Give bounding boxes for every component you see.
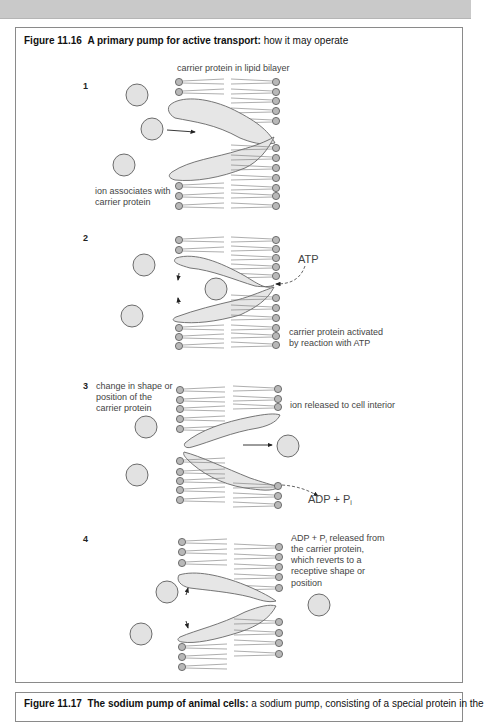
ion <box>113 154 135 176</box>
carrier-protein-lower <box>178 605 276 642</box>
step-4: 4 ADP + Pi released from the carrier pro… <box>83 533 384 671</box>
label-adp-pi: ADP + Pi <box>308 493 352 506</box>
label-revert-3: which reverts to a <box>290 555 362 565</box>
figure-11-17-box: Figure 11.17 The sodium pump of animal c… <box>15 692 463 722</box>
atp-arrow <box>276 266 305 284</box>
label-ion-released: ion released to cell interior <box>290 400 395 410</box>
ion <box>121 305 143 327</box>
ion <box>277 435 299 457</box>
step-3-number: 3 <box>83 381 88 391</box>
ion <box>141 118 163 140</box>
figure-11-17-title-bold: The sodium pump of animal cells: <box>87 698 248 709</box>
step-1: 1 carrier protein in lipid bilayer ion a… <box>83 63 290 210</box>
ion <box>135 416 157 438</box>
label-ion-associates-2: carrier protein <box>95 197 151 207</box>
step-2: 2 ATP carrier protein activated by react… <box>83 233 383 350</box>
label-carrier-in-bilayer: carrier protein in lipid bilayer <box>177 63 290 73</box>
label-change-1: change in shape or <box>96 381 173 391</box>
ion <box>126 464 148 486</box>
label-revert-5: position <box>291 578 322 588</box>
figure-11-17-title-rest: a sodium pump, consisting of a special p… <box>249 698 484 709</box>
figure-11-17-number: Figure 11.17 <box>24 698 82 709</box>
ion <box>156 581 178 603</box>
step-4-number: 4 <box>83 534 88 544</box>
ion <box>205 278 227 300</box>
ion <box>126 84 148 106</box>
step-3: 3 change in shape or position of the car… <box>83 381 395 509</box>
step-2-number: 2 <box>83 233 88 243</box>
figure-11-17-caption: Figure 11.17 The sodium pump of animal c… <box>24 698 484 709</box>
label-change-2: position of the <box>96 392 152 402</box>
carrier-protein-upper <box>184 414 280 448</box>
label-atp: ATP <box>298 253 319 265</box>
label-change-3: carrier protein <box>96 403 152 413</box>
ion <box>308 594 330 616</box>
label-activated-1: carrier protein activated <box>289 327 383 337</box>
step-1-number: 1 <box>83 81 88 91</box>
ion <box>130 623 152 645</box>
ion <box>133 254 155 276</box>
label-activated-2: by reaction with ATP <box>289 338 370 348</box>
carrier-protein-upper <box>178 573 276 602</box>
label-revert-4: receptive shape or <box>291 566 365 576</box>
label-revert-2: the carrier protein, <box>291 544 364 554</box>
carrier-protein-upper <box>168 99 275 144</box>
label-ion-associates-1: ion associates with <box>95 186 171 196</box>
label-revert-1: ADP + Pi released from <box>291 533 384 544</box>
